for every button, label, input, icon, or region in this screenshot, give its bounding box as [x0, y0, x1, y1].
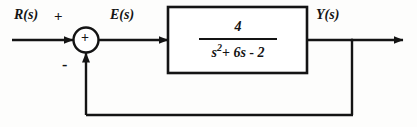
- error-signal-label: E(s): [110, 8, 134, 22]
- output-signal-label: Y(s): [316, 8, 339, 22]
- summing-junction-minus-sign: -: [62, 57, 67, 73]
- transfer-function-numerator: 4: [235, 20, 242, 34]
- block-diagram-canvas: R(s) E(s) Y(s) + - + 4 s2+ 6s - 2: [0, 0, 417, 127]
- input-signal-label: R(s): [14, 8, 38, 22]
- denominator-term-2: 6s: [233, 45, 245, 60]
- denominator-operator-2: -: [249, 45, 254, 60]
- denominator-operator-1: +: [222, 45, 230, 60]
- transfer-function-denominator: s2+ 6s - 2: [211, 43, 264, 60]
- denominator-term-3: 2: [258, 45, 265, 60]
- summing-junction-plus-sign: +: [54, 9, 63, 24]
- fraction-bar: [199, 38, 277, 40]
- transfer-function-expression: 4 s2+ 6s - 2: [168, 7, 308, 73]
- summing-junction-inner-symbol: +: [81, 31, 89, 45]
